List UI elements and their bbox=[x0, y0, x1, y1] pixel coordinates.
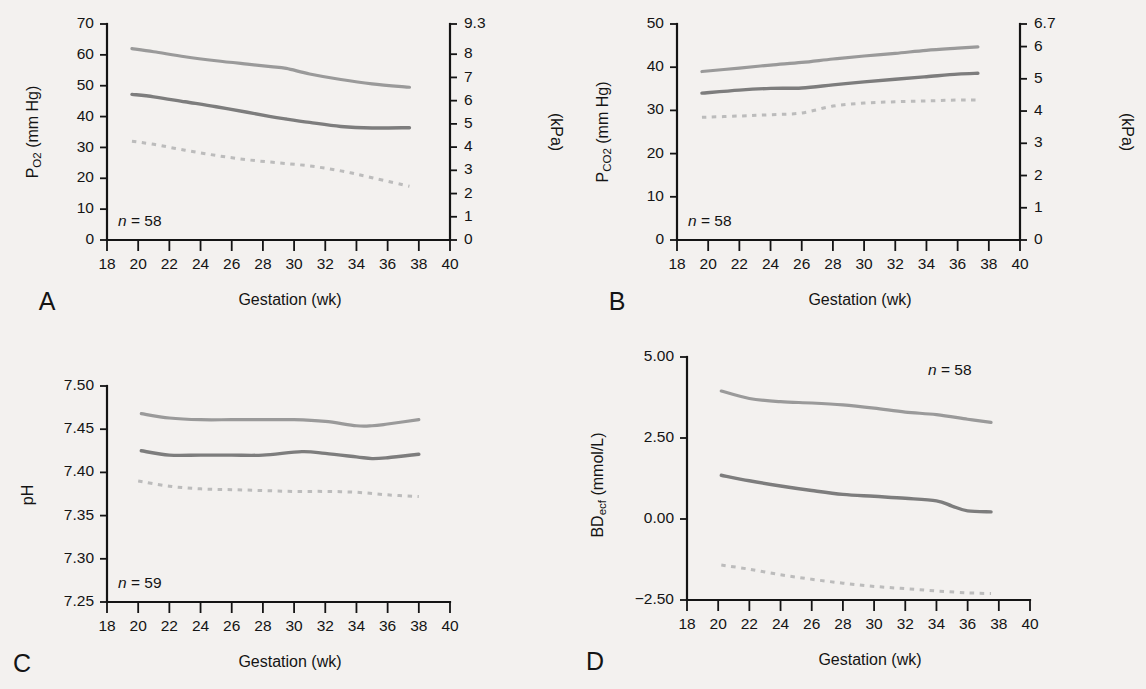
y2-tick-label-a-1: 1 bbox=[464, 207, 473, 224]
x-tick-label-b-4: 26 bbox=[793, 255, 810, 272]
y-tick-label-b-2: 20 bbox=[647, 144, 665, 161]
y2-tick-label-a-6: 6 bbox=[464, 91, 473, 108]
y2-tick-label-a-8: 8 bbox=[464, 44, 473, 61]
curve-c-median bbox=[141, 451, 419, 459]
curve-a-median bbox=[132, 94, 410, 128]
y2-tick-label-b-0: 0 bbox=[1034, 230, 1043, 247]
panel-d-y-ticks: −2.500.002.505.00 bbox=[635, 347, 687, 607]
x-tick-label-c-1: 20 bbox=[130, 617, 148, 634]
curve-b-upper-centile bbox=[702, 47, 978, 72]
panel-b-x-axis-title: Gestation (wk) bbox=[808, 291, 911, 308]
panel-c-x-axis-title: Gestation (wk) bbox=[238, 653, 341, 670]
panel-c-y-ticks: 7.257.307.357.407.457.50 bbox=[64, 376, 107, 609]
panel-d-y-axis-title: BDecf (mmol/L) bbox=[589, 432, 608, 537]
y2-tick-label-a-2: 2 bbox=[464, 184, 473, 201]
x-tick-label-a-4: 26 bbox=[223, 255, 240, 272]
y-tick-label-c-4: 7.45 bbox=[64, 419, 94, 436]
x-tick-label-d-4: 26 bbox=[803, 615, 820, 632]
panel-a-axes bbox=[107, 24, 450, 240]
y2-tick-label-b-6: 6 bbox=[1034, 37, 1043, 54]
panel-c-n-annotation: n = 59 bbox=[118, 574, 162, 591]
y-tick-label-a-5: 50 bbox=[77, 76, 95, 93]
x-tick-label-b-6: 30 bbox=[855, 255, 873, 272]
x-tick-label-b-2: 22 bbox=[731, 255, 748, 272]
y-tick-label-c-0: 7.25 bbox=[64, 592, 94, 609]
panel-d-x-ticks: 182022242628303234363840 bbox=[678, 600, 1039, 632]
y2-tick-label-b-1: 1 bbox=[1034, 198, 1043, 215]
panel-a-n-annotation: n = 58 bbox=[118, 212, 162, 229]
y-tick-label-a-6: 60 bbox=[77, 45, 95, 62]
x-tick-label-b-11: 40 bbox=[1011, 255, 1029, 272]
x-tick-label-d-2: 22 bbox=[741, 615, 758, 632]
y-tick-label-b-4: 40 bbox=[647, 57, 665, 74]
panel-a-y-axis-title: PO2 (mm Hg) bbox=[24, 86, 43, 179]
x-tick-label-c-9: 36 bbox=[379, 617, 396, 634]
panel-b-curves bbox=[702, 47, 978, 117]
panel-c-svg: 7.257.307.357.407.457.50 182022242628303… bbox=[0, 345, 573, 689]
x-tick-label-b-9: 36 bbox=[949, 255, 966, 272]
x-tick-label-b-8: 34 bbox=[918, 255, 936, 272]
y2-tick-label-b-3: 3 bbox=[1034, 133, 1043, 150]
panel-a-y2-axis-title: (kPa) bbox=[548, 113, 565, 151]
x-tick-label-c-3: 24 bbox=[192, 617, 210, 634]
panel-d-curves bbox=[721, 391, 991, 594]
x-tick-label-a-3: 24 bbox=[192, 255, 210, 272]
panel-b-y-ticks: 01020304050 bbox=[647, 14, 677, 247]
panel-c-curves bbox=[138, 414, 419, 497]
x-tick-label-a-2: 22 bbox=[161, 255, 178, 272]
y-tick-label-a-4: 40 bbox=[77, 107, 95, 124]
panel-a-y2-ticks: 0123456789.3 bbox=[450, 14, 486, 247]
x-tick-label-a-9: 36 bbox=[379, 255, 396, 272]
panel-a-curves bbox=[132, 49, 410, 187]
y2-tick-label-b-4: 4 bbox=[1034, 101, 1043, 118]
four-panel-figure: 010203040506070 0123456789.3 18202224262… bbox=[0, 0, 1146, 689]
curve-c-upper-centile bbox=[141, 414, 419, 426]
y2-tick-label-a-0: 0 bbox=[464, 230, 473, 247]
x-tick-label-d-7: 32 bbox=[897, 615, 914, 632]
x-tick-label-d-10: 38 bbox=[990, 615, 1007, 632]
x-tick-label-c-10: 38 bbox=[410, 617, 427, 634]
x-tick-label-b-7: 32 bbox=[887, 255, 904, 272]
x-tick-label-c-11: 40 bbox=[441, 617, 459, 634]
y2-tick-label-a-4: 4 bbox=[464, 137, 473, 154]
panel-b-x-ticks: 182022242628303234363840 bbox=[668, 240, 1029, 272]
x-tick-label-b-10: 38 bbox=[980, 255, 997, 272]
panel-d-n-annotation: n = 58 bbox=[928, 361, 972, 378]
panel-c-x-ticks: 182022242628303234363840 bbox=[98, 602, 459, 634]
x-tick-label-b-3: 24 bbox=[762, 255, 780, 272]
chart-panel-d: −2.500.002.505.00 1820222426283032343638… bbox=[573, 345, 1146, 689]
x-tick-label-a-10: 38 bbox=[410, 255, 427, 272]
y2-tick-label-a-9: 9.3 bbox=[464, 14, 486, 31]
y2-tick-label-a-7: 7 bbox=[464, 68, 473, 85]
curve-a-upper-centile bbox=[132, 49, 410, 88]
panel-b-y-axis-title: PCO2 (mm Hg) bbox=[594, 82, 613, 183]
curve-b-median bbox=[702, 73, 978, 93]
y-tick-label-d-1: 0.00 bbox=[644, 509, 675, 526]
y-tick-label-d-3: 5.00 bbox=[644, 347, 675, 364]
x-tick-label-d-8: 34 bbox=[928, 615, 946, 632]
panel-a-x-ticks: 182022242628303234363840 bbox=[98, 240, 459, 272]
panel-d-x-axis-title: Gestation (wk) bbox=[818, 651, 921, 668]
y-tick-label-b-1: 10 bbox=[647, 187, 665, 204]
panel-c-y-axis-title: pH bbox=[19, 485, 36, 505]
x-tick-label-d-3: 24 bbox=[772, 615, 790, 632]
panel-b-n-annotation: n = 58 bbox=[688, 212, 732, 229]
curve-b-lower-centile bbox=[702, 100, 978, 117]
panel-a-svg: 010203040506070 0123456789.3 18202224262… bbox=[0, 0, 573, 344]
x-tick-label-b-5: 28 bbox=[824, 255, 841, 272]
x-tick-label-a-7: 32 bbox=[317, 255, 334, 272]
y2-tick-label-a-5: 5 bbox=[464, 114, 473, 131]
y-tick-label-b-5: 50 bbox=[647, 14, 665, 31]
y-tick-label-a-0: 0 bbox=[85, 230, 94, 247]
x-tick-label-c-6: 30 bbox=[285, 617, 303, 634]
x-tick-label-d-9: 36 bbox=[959, 615, 976, 632]
y-tick-label-c-2: 7.35 bbox=[64, 506, 94, 523]
x-tick-label-a-11: 40 bbox=[441, 255, 459, 272]
x-tick-label-a-1: 20 bbox=[130, 255, 148, 272]
y-tick-label-c-3: 7.40 bbox=[64, 462, 95, 479]
chart-panel-c: 7.257.307.357.407.457.50 182022242628303… bbox=[0, 345, 573, 689]
curve-d-upper-centile bbox=[721, 391, 991, 422]
x-tick-label-c-8: 34 bbox=[348, 617, 366, 634]
x-tick-label-b-1: 20 bbox=[700, 255, 718, 272]
x-tick-label-b-0: 18 bbox=[668, 255, 685, 272]
